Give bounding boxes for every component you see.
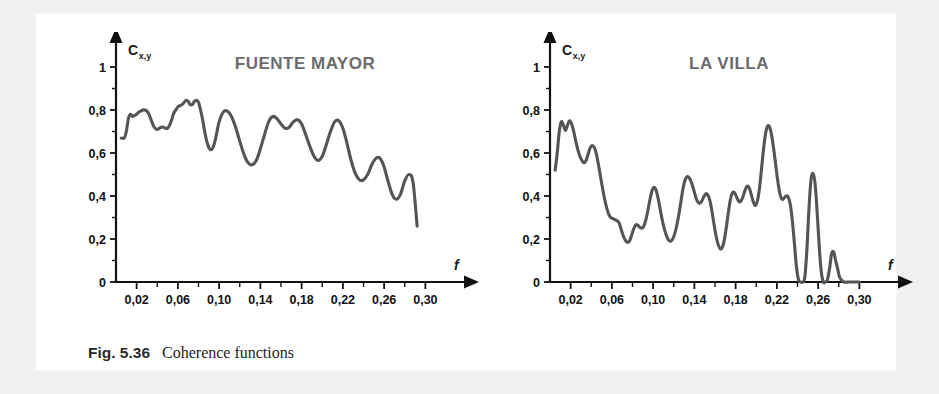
svg-text:0: 0 bbox=[533, 276, 540, 290]
svg-text:0,2: 0,2 bbox=[89, 233, 106, 247]
svg-text:0,26: 0,26 bbox=[806, 293, 830, 307]
svg-text:0,06: 0,06 bbox=[600, 293, 624, 307]
svg-text:1: 1 bbox=[533, 61, 540, 75]
svg-text:0,6: 0,6 bbox=[523, 147, 540, 161]
svg-text:1: 1 bbox=[99, 61, 106, 75]
svg-text:0,2: 0,2 bbox=[523, 233, 540, 247]
svg-text:0,14: 0,14 bbox=[682, 293, 706, 307]
svg-text:Cx,y: Cx,y bbox=[128, 42, 151, 61]
svg-text:0,10: 0,10 bbox=[641, 293, 665, 307]
figure-root: FUENTE MAYOR 00,20,40,60,81Cx,y0,020,060… bbox=[0, 0, 939, 394]
chart-panel-la-villa: LA VILLA 00,20,40,60,81Cx,y0,020,060,100… bbox=[484, 32, 914, 307]
svg-text:0,02: 0,02 bbox=[558, 293, 582, 307]
plot-area-la-villa: 00,20,40,60,81Cx,y0,020,060,100,140,180,… bbox=[484, 32, 914, 307]
coherence-curve bbox=[121, 100, 417, 226]
svg-text:0,30: 0,30 bbox=[847, 293, 871, 307]
svg-text:0,8: 0,8 bbox=[523, 104, 540, 118]
figure-white-panel: FUENTE MAYOR 00,20,40,60,81Cx,y0,020,060… bbox=[36, 14, 896, 370]
svg-text:0,02: 0,02 bbox=[124, 293, 148, 307]
svg-text:0,10: 0,10 bbox=[207, 293, 231, 307]
svg-text:f: f bbox=[888, 257, 894, 273]
svg-text:0,4: 0,4 bbox=[523, 190, 540, 204]
caption-label: Fig. 5.36 bbox=[88, 344, 150, 361]
svg-text:0,30: 0,30 bbox=[413, 293, 437, 307]
svg-text:0,18: 0,18 bbox=[723, 293, 747, 307]
svg-text:f: f bbox=[454, 257, 460, 273]
caption-text: Coherence functions bbox=[162, 344, 294, 361]
svg-text:Cx,y: Cx,y bbox=[562, 42, 585, 61]
svg-text:0,18: 0,18 bbox=[289, 293, 313, 307]
plot-area-fuente-mayor: 00,20,40,60,81Cx,y0,020,060,100,140,180,… bbox=[50, 32, 480, 307]
svg-text:0: 0 bbox=[99, 276, 106, 290]
svg-text:0,6: 0,6 bbox=[89, 147, 106, 161]
svg-text:0,8: 0,8 bbox=[89, 104, 106, 118]
svg-text:0,06: 0,06 bbox=[166, 293, 190, 307]
svg-text:0,26: 0,26 bbox=[372, 293, 396, 307]
coherence-curve bbox=[555, 121, 859, 283]
svg-text:0,4: 0,4 bbox=[89, 190, 106, 204]
chart-panel-fuente-mayor: FUENTE MAYOR 00,20,40,60,81Cx,y0,020,060… bbox=[50, 32, 480, 307]
svg-text:0,14: 0,14 bbox=[248, 293, 272, 307]
svg-text:0,22: 0,22 bbox=[765, 293, 789, 307]
svg-text:0,22: 0,22 bbox=[331, 293, 355, 307]
figure-caption: Fig. 5.36Coherence functions bbox=[88, 344, 294, 362]
